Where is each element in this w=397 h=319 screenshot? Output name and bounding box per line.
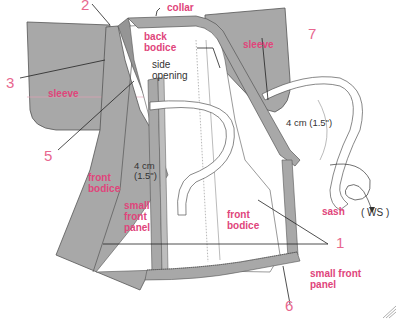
step-number-7: 7 [308, 26, 316, 43]
label-ws: ( WS ) [361, 207, 389, 218]
measurement-right: 4 cm (1.5") [286, 118, 332, 128]
label-collar: collar [167, 2, 194, 13]
label-sleeve-right: sleeve [243, 39, 274, 50]
step-number-2: 2 [81, 0, 89, 14]
corner-mark [383, 306, 396, 318]
label-back-bodice: back bodice [144, 31, 176, 53]
label-front-bodice-inner: front bodice [227, 209, 259, 231]
step-number-6: 6 [285, 298, 293, 315]
label-small-front-panel-left: small front panel [124, 200, 150, 233]
step-number-1: 1 [336, 235, 344, 252]
step-number-5: 5 [44, 148, 52, 165]
sash-guide-arc [318, 100, 327, 160]
label-small-front-panel-inner: small front panel [310, 268, 361, 290]
label-front-bodice-left: front bodice [88, 172, 120, 194]
label-sash: sash [322, 206, 345, 217]
measurement-left: 4 cm (1.5") [134, 161, 157, 182]
label-side-opening: side opening [152, 59, 188, 81]
step-number-3: 3 [6, 75, 14, 92]
label-sleeve-left: sleeve [48, 88, 79, 99]
inner-strip-right [282, 160, 298, 258]
